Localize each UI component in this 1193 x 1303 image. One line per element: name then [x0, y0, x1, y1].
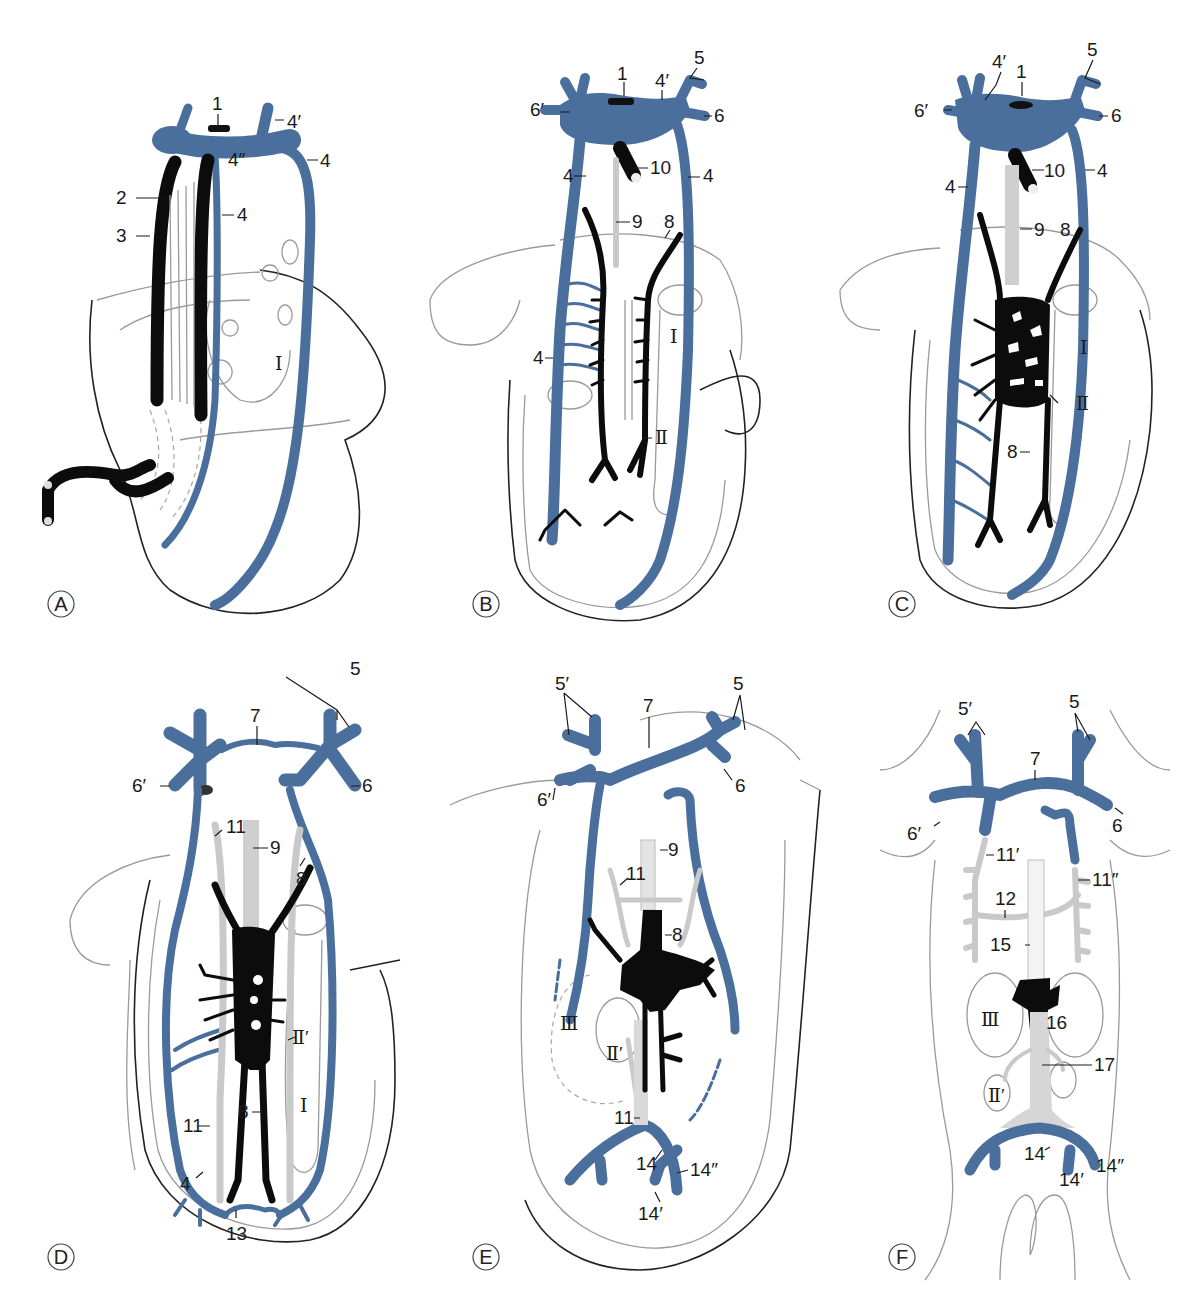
panel-a-vessel-2 — [201, 160, 208, 415]
panel-f-vessel-7-and-branches — [935, 735, 1107, 830]
panel-a-vessel-4-right — [215, 148, 310, 605]
panel-e-right-cardinal — [668, 792, 735, 1030]
label-roman-II-prime: Ⅱ′ — [988, 1085, 1005, 1106]
panel-c-vessel-10-lumen — [1028, 184, 1038, 194]
panel-a-umbilical-stub — [48, 465, 168, 520]
label-14-prime: 14′ — [1059, 1169, 1084, 1190]
label-6: 6 — [1111, 105, 1122, 126]
panel-b-shoulder-outline — [430, 245, 555, 345]
panel-f-vessel-15 — [1028, 860, 1044, 980]
label-4-prime: 4′ — [287, 111, 302, 132]
venous-development-figure: 1 4′ 4″ 4 2 4 3 Ⅰ A 1 4′ 5 — [0, 0, 1193, 1303]
label-16: 16 — [1046, 1012, 1067, 1033]
label-5-prime: 5′ — [555, 673, 570, 694]
panel-letter-d: D — [54, 1246, 68, 1268]
label-10: 10 — [650, 157, 671, 178]
panel-d-sinusoid-gap — [253, 975, 263, 985]
label-13: 13 — [226, 1223, 247, 1244]
label-6-prime: 6′ — [907, 823, 922, 844]
label-5: 5 — [694, 47, 705, 68]
panel-d-left-cardinal-cranial — [170, 715, 220, 790]
label-4: 4 — [703, 165, 714, 186]
panel-a-vessel-left-top — [180, 108, 188, 130]
panel-c-branches-left — [972, 320, 995, 420]
panel-a-vessel-4prime — [262, 108, 268, 135]
label-15: 15 — [990, 934, 1011, 955]
label-4: 4 — [320, 150, 331, 171]
label-14-prime: 14′ — [638, 1203, 663, 1224]
label-11: 11 — [626, 863, 646, 884]
label-8: 8 — [672, 924, 683, 945]
label-6-prime: 6′ — [530, 99, 545, 120]
label-3: 3 — [116, 225, 127, 246]
panel-a-vessel-end — [44, 481, 52, 489]
label-4-prime: 4′ — [992, 51, 1007, 72]
panel-c-vessel-4-left — [948, 145, 975, 560]
label-roman-III: Ⅲ — [981, 1009, 999, 1030]
label-9: 9 — [632, 211, 643, 232]
label-6: 6 — [362, 775, 373, 796]
panel-e: 5′ 7 5 6′ 6 9 11 8 Ⅲ Ⅱ′ 11 14 14″ 14′ E — [450, 673, 820, 1270]
panel-letter-c: C — [895, 593, 909, 615]
label-5: 5 — [1087, 39, 1098, 60]
panel-d-vessel-13-plexus — [225, 1207, 280, 1215]
label-7: 7 — [1030, 748, 1041, 769]
panel-letter-a: A — [54, 593, 68, 615]
label-4: 4 — [1097, 160, 1108, 181]
panel-b-vessel-1-cap — [608, 98, 634, 105]
label-roman-II-prime: Ⅱ′ — [292, 1027, 309, 1048]
label-17: 17 — [1094, 1054, 1115, 1075]
label-6: 6 — [735, 775, 746, 796]
panel-b-vessel-10-lumen — [631, 173, 641, 183]
label-roman-I: Ⅰ — [275, 353, 283, 374]
label-4: 4 — [563, 165, 574, 186]
label-5: 5 — [350, 658, 361, 679]
label-7: 7 — [250, 705, 261, 726]
panel-e-left-cardinal — [570, 785, 600, 1020]
label-4-double-prime: 4″ — [228, 149, 246, 170]
panel-c-organ — [1053, 285, 1097, 315]
label-9: 9 — [1034, 219, 1045, 240]
panel-d-vessel-7-plexus — [222, 742, 318, 750]
label-roman-II: Ⅱ — [655, 427, 668, 448]
label-6-prime: 6′ — [537, 789, 552, 810]
label-1: 1 — [1016, 61, 1027, 82]
panel-f-vessel-11-double-prime-lower — [1075, 870, 1088, 960]
label-9: 9 — [270, 837, 281, 858]
label-1: 1 — [212, 93, 223, 114]
panel-d: 5 7 6′ 6 11 9 8 Ⅱ′ Ⅰ 11 8 4 13 D — [48, 658, 400, 1270]
panel-f-tail-outline — [1000, 1195, 1075, 1280]
panel-a-vessel-end — [44, 517, 52, 525]
panel-b-body-outline — [508, 350, 760, 621]
label-4: 4 — [533, 347, 544, 368]
label-8: 8 — [1007, 441, 1018, 462]
panel-c-vessel-9 — [1005, 165, 1019, 285]
label-4: 4 — [180, 1173, 191, 1194]
panel-e-vessel-7-and-branches — [560, 717, 735, 780]
panel-b-vessel-10 — [620, 148, 634, 175]
label-8: 8 — [296, 868, 307, 889]
panel-c-vessel-1-cap — [1009, 101, 1033, 109]
label-11: 11 — [614, 1107, 634, 1128]
label-5: 5 — [733, 673, 744, 694]
label-1: 1 — [617, 63, 628, 84]
label-4-prime: 4′ — [655, 70, 670, 91]
label-roman-I: Ⅰ — [300, 1095, 308, 1116]
label-roman-I: Ⅰ — [1080, 337, 1088, 358]
panel-d-shoulder-outline — [70, 855, 170, 965]
panel-c-hepatic-sinusoids — [995, 297, 1050, 408]
panel-b-vessel-4-right — [620, 120, 689, 605]
panel-b-organ — [658, 285, 702, 315]
label-11: 11 — [183, 1115, 203, 1136]
panel-f-vessel-12 — [975, 895, 1078, 917]
panel-d-sinusoid-gap — [250, 996, 258, 1004]
label-8: 8 — [238, 1101, 249, 1122]
panel-a-vessel-1-cap — [208, 125, 230, 132]
panel-e-shoulder-outline — [450, 712, 800, 805]
panel-f-vessel-11-double-prime — [1045, 810, 1075, 860]
panel-letter-f: F — [896, 1246, 908, 1268]
label-4: 4 — [945, 176, 956, 197]
label-roman-II: Ⅱ — [1076, 393, 1089, 414]
panel-e-vessel-8-hepatic — [620, 910, 715, 1012]
panel-f-vessel-11-prime — [966, 840, 985, 960]
